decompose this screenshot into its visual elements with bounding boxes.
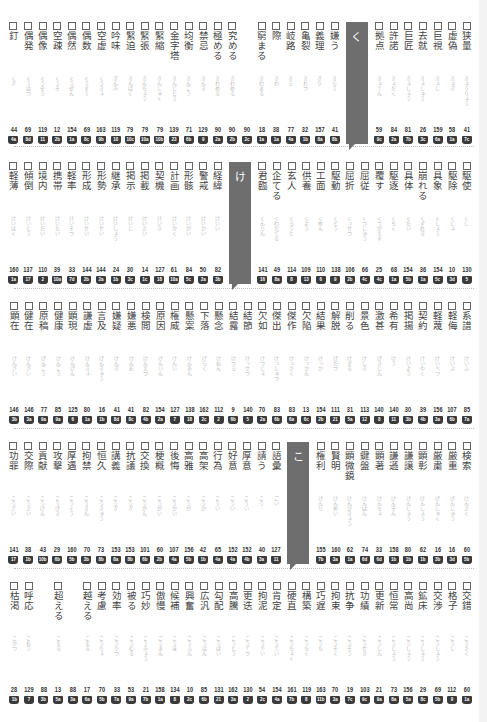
checkbox[interactable] bbox=[361, 162, 369, 170]
checkbox[interactable] bbox=[39, 442, 47, 450]
checkbox[interactable] bbox=[199, 442, 207, 450]
checkbox[interactable] bbox=[10, 302, 18, 310]
checkbox[interactable] bbox=[141, 22, 149, 30]
checkbox[interactable] bbox=[68, 162, 76, 170]
checkbox[interactable] bbox=[54, 302, 62, 310]
checkbox[interactable] bbox=[375, 22, 383, 30]
checkbox[interactable] bbox=[53, 162, 61, 170]
checkbox[interactable] bbox=[228, 442, 236, 450]
kana-index-tab[interactable]: こ bbox=[287, 442, 309, 564]
checkbox[interactable] bbox=[331, 302, 339, 310]
checkbox[interactable] bbox=[434, 162, 442, 170]
checkbox[interactable] bbox=[215, 302, 223, 310]
checkbox[interactable] bbox=[404, 442, 412, 450]
checkbox[interactable] bbox=[448, 162, 456, 170]
checkbox[interactable] bbox=[171, 582, 179, 590]
checkbox[interactable] bbox=[126, 162, 134, 170]
checkbox[interactable] bbox=[141, 162, 149, 170]
checkbox[interactable] bbox=[419, 162, 427, 170]
checkbox[interactable] bbox=[142, 582, 150, 590]
checkbox[interactable] bbox=[331, 582, 339, 590]
kana-index-tab[interactable]: く bbox=[346, 22, 368, 144]
checkbox[interactable] bbox=[434, 582, 442, 590]
checkbox[interactable] bbox=[317, 582, 325, 590]
checkbox[interactable] bbox=[288, 162, 296, 170]
checkbox[interactable] bbox=[463, 302, 471, 310]
checkbox[interactable] bbox=[171, 302, 179, 310]
checkbox[interactable] bbox=[448, 442, 456, 450]
checkbox[interactable] bbox=[448, 582, 456, 590]
checkbox[interactable] bbox=[53, 442, 61, 450]
checkbox[interactable] bbox=[156, 302, 164, 310]
checkbox[interactable] bbox=[126, 22, 134, 30]
checkbox[interactable] bbox=[288, 582, 296, 590]
checkbox[interactable] bbox=[258, 162, 266, 170]
checkbox[interactable] bbox=[302, 582, 310, 590]
checkbox[interactable] bbox=[82, 162, 90, 170]
checkbox[interactable] bbox=[229, 302, 237, 310]
checkbox[interactable] bbox=[127, 302, 135, 310]
checkbox[interactable] bbox=[9, 22, 17, 30]
checkbox[interactable] bbox=[39, 22, 47, 30]
checkbox[interactable] bbox=[83, 302, 91, 310]
checkbox[interactable] bbox=[434, 22, 442, 30]
checkbox[interactable] bbox=[214, 162, 222, 170]
checkbox[interactable] bbox=[375, 302, 383, 310]
checkbox[interactable] bbox=[155, 162, 163, 170]
checkbox[interactable] bbox=[53, 22, 61, 30]
checkbox[interactable] bbox=[346, 302, 354, 310]
checkbox[interactable] bbox=[317, 442, 325, 450]
checkbox[interactable] bbox=[419, 22, 427, 30]
checkbox[interactable] bbox=[142, 302, 150, 310]
checkbox[interactable] bbox=[215, 582, 223, 590]
checkbox[interactable] bbox=[346, 162, 354, 170]
checkbox[interactable] bbox=[97, 442, 105, 450]
checkbox[interactable] bbox=[200, 302, 208, 310]
checkbox[interactable] bbox=[82, 22, 90, 30]
checkbox[interactable] bbox=[112, 582, 120, 590]
checkbox[interactable] bbox=[258, 442, 266, 450]
checkbox[interactable] bbox=[199, 162, 207, 170]
checkbox[interactable] bbox=[317, 162, 325, 170]
checkbox[interactable] bbox=[375, 442, 383, 450]
checkbox[interactable] bbox=[9, 162, 17, 170]
checkbox[interactable] bbox=[170, 442, 178, 450]
checkbox[interactable] bbox=[155, 442, 163, 450]
checkbox[interactable] bbox=[419, 582, 427, 590]
checkbox[interactable] bbox=[185, 162, 193, 170]
checkbox[interactable] bbox=[434, 302, 442, 310]
checkbox[interactable] bbox=[185, 22, 193, 30]
checkbox[interactable] bbox=[346, 442, 354, 450]
checkbox[interactable] bbox=[156, 582, 164, 590]
checkbox[interactable] bbox=[97, 162, 105, 170]
checkbox[interactable] bbox=[200, 582, 208, 590]
checkbox[interactable] bbox=[301, 22, 309, 30]
checkbox[interactable] bbox=[214, 442, 222, 450]
checkbox[interactable] bbox=[228, 22, 236, 30]
checkbox[interactable] bbox=[258, 22, 266, 30]
checkbox[interactable] bbox=[419, 442, 427, 450]
checkbox[interactable] bbox=[39, 302, 47, 310]
checkbox[interactable] bbox=[10, 582, 18, 590]
checkbox[interactable] bbox=[127, 582, 135, 590]
checkbox[interactable] bbox=[112, 22, 120, 30]
checkbox[interactable] bbox=[434, 442, 442, 450]
checkbox[interactable] bbox=[126, 442, 134, 450]
checkbox[interactable] bbox=[390, 22, 398, 30]
checkbox[interactable] bbox=[463, 442, 471, 450]
checkbox[interactable] bbox=[361, 442, 369, 450]
checkbox[interactable] bbox=[331, 22, 339, 30]
checkbox[interactable] bbox=[25, 302, 33, 310]
checkbox[interactable] bbox=[375, 582, 383, 590]
checkbox[interactable] bbox=[243, 442, 251, 450]
checkbox[interactable] bbox=[273, 582, 281, 590]
checkbox[interactable] bbox=[54, 582, 62, 590]
checkbox[interactable] bbox=[258, 582, 266, 590]
checkbox[interactable] bbox=[331, 162, 339, 170]
checkbox[interactable] bbox=[463, 22, 471, 30]
checkbox[interactable] bbox=[361, 302, 369, 310]
checkbox[interactable] bbox=[68, 22, 76, 30]
checkbox[interactable] bbox=[390, 162, 398, 170]
checkbox[interactable] bbox=[24, 442, 32, 450]
checkbox[interactable] bbox=[390, 302, 398, 310]
